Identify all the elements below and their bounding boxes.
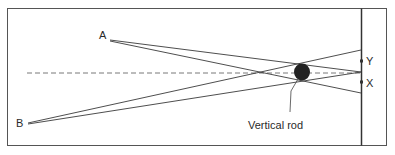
vertical-rod (294, 64, 310, 81)
label-y: Y (366, 55, 374, 67)
label-b: B (16, 117, 23, 129)
rod-leader-line (290, 79, 298, 112)
ray-b-upper (28, 50, 361, 123)
ray-b-lower (28, 72, 361, 124)
label-vertical-rod: Vertical rod (248, 119, 303, 131)
label-a: A (99, 29, 107, 41)
diagram-canvas: A B Y X Vertical rod (0, 0, 395, 155)
point-y-marker (360, 60, 363, 63)
point-x-marker (360, 81, 363, 84)
label-x: X (366, 77, 374, 89)
shadow-diagram: A B Y X Vertical rod (0, 0, 395, 155)
